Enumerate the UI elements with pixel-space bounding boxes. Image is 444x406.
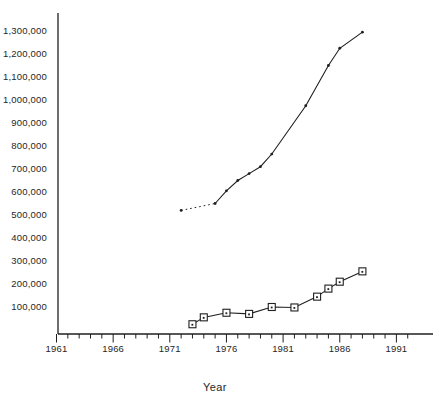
- square-inner-dot: [191, 324, 193, 326]
- scanned-line-chart-figure: 1961196619711976198119861991100,000200,0…: [0, 0, 444, 406]
- square-inner-dot: [327, 288, 329, 290]
- dot-marker: [259, 165, 262, 168]
- dot-marker: [225, 189, 228, 192]
- y-tick-label: 400,000: [11, 232, 47, 243]
- x-tick-label: 1971: [159, 343, 181, 354]
- square-inner-dot: [248, 314, 250, 316]
- dot-marker: [304, 104, 307, 107]
- y-tick-label: 600,000: [11, 186, 47, 197]
- square-inner-dot: [361, 271, 363, 273]
- y-tick-label: 1,200,000: [3, 48, 47, 59]
- x-tick-label: 1961: [46, 343, 68, 354]
- dot-marker: [248, 172, 251, 175]
- chart-canvas: 1961196619711976198119861991100,000200,0…: [0, 0, 444, 406]
- upper-line-dotted-segment: [181, 204, 215, 211]
- square-inner-dot: [203, 317, 205, 319]
- x-axis-title: Year: [203, 381, 227, 393]
- y-tick-label: 1,300,000: [3, 25, 47, 36]
- x-tick-label: 1991: [385, 343, 407, 354]
- dot-marker: [214, 202, 217, 205]
- y-tick-label: 900,000: [11, 117, 47, 128]
- series-upper-line: [180, 31, 364, 212]
- x-tick-label: 1966: [102, 343, 124, 354]
- dot-marker: [180, 209, 183, 212]
- series-lower-line: [189, 268, 366, 328]
- y-tick-label: 700,000: [11, 163, 47, 174]
- dot-marker: [327, 64, 330, 67]
- y-tick-label: 1,000,000: [3, 94, 47, 105]
- y-tick-label: 1,100,000: [3, 71, 47, 82]
- square-inner-dot: [316, 296, 318, 298]
- y-tick-label: 100,000: [11, 301, 47, 312]
- square-inner-dot: [339, 281, 341, 283]
- dot-marker: [338, 47, 341, 50]
- y-tick-label: 200,000: [11, 278, 47, 289]
- dot-marker: [361, 31, 364, 34]
- y-tick-label: 800,000: [11, 140, 47, 151]
- square-inner-dot: [225, 312, 227, 314]
- y-tick-label: 500,000: [11, 209, 47, 220]
- x-tick-label: 1976: [215, 343, 237, 354]
- series-layer: [180, 31, 366, 328]
- axes-layer: 1961196619711976198119861991100,000200,0…: [3, 13, 433, 354]
- x-tick-label: 1981: [272, 343, 294, 354]
- dot-marker: [270, 153, 273, 156]
- dot-marker: [236, 179, 239, 182]
- square-inner-dot: [271, 307, 273, 309]
- upper-line-polyline: [215, 32, 362, 203]
- square-inner-dot: [293, 307, 295, 309]
- x-tick-label: 1986: [329, 343, 351, 354]
- y-tick-label: 300,000: [11, 255, 47, 266]
